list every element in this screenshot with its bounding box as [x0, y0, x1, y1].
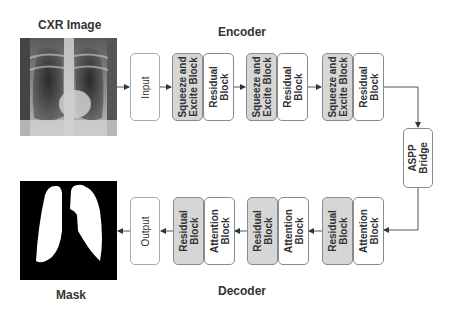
encoder-3-res-label: Residual Block [358, 66, 380, 108]
encoder-3-residual-block: Residual Block [353, 53, 384, 121]
decoder-2-res-label: Residual Block [252, 210, 274, 252]
encoder-3-squeeze-excite-block: Squeeze and Excite Block [322, 53, 353, 121]
encoder-1-res-label: Residual Block [208, 66, 230, 108]
encoder-2-squeeze-excite-block: Squeeze and Excite Block [246, 53, 277, 121]
output-node-label: Output [140, 216, 151, 246]
encoder-2-res-label: Residual Block [282, 66, 304, 108]
decoder-3-att-label: Attention Block [209, 209, 231, 253]
input-node: Input [130, 53, 160, 121]
decoder-1-att-label: Attention Block [358, 209, 380, 253]
encoder-2-residual-block: Residual Block [277, 53, 308, 121]
aspp-bridge: ASPP Bridge [403, 128, 433, 188]
decoder-1-residual-block: Residual Block [322, 197, 353, 265]
connectors [0, 0, 457, 314]
decoder-3-res-label: Residual Block [178, 210, 200, 252]
decoder-1-attention-block: Attention Block [353, 197, 384, 265]
decoder-1-res-label: Residual Block [327, 210, 349, 252]
decoder-3-residual-block: Residual Block [173, 197, 204, 265]
input-node-label: Input [140, 76, 151, 98]
decoder-2-attention-block: Attention Block [278, 197, 309, 265]
output-node: Output [130, 197, 160, 265]
aspp-bridge-label: ASPP Bridge [407, 142, 429, 174]
encoder-1-se-label: Squeeze and Excite Block [177, 56, 199, 117]
encoder-2-se-label: Squeeze and Excite Block [251, 56, 273, 117]
decoder-2-att-label: Attention Block [283, 209, 305, 253]
encoder-3-se-label: Squeeze and Excite Block [327, 56, 349, 117]
decoder-3-attention-block: Attention Block [204, 197, 235, 265]
encoder-1-residual-block: Residual Block [203, 53, 234, 121]
encoder-1-squeeze-excite-block: Squeeze and Excite Block [172, 53, 203, 121]
decoder-2-residual-block: Residual Block [247, 197, 278, 265]
